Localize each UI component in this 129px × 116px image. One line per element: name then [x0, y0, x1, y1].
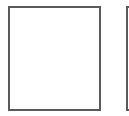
- empty-panel-left: [8, 6, 101, 111]
- empty-panel-right: [126, 6, 129, 111]
